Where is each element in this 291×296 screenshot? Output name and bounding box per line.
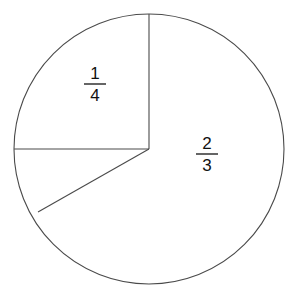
two-thirds-denominator: 3 bbox=[202, 156, 211, 175]
circle-figure-svg: 1 4 2 3 bbox=[0, 0, 291, 296]
two-thirds-numerator: 2 bbox=[202, 134, 211, 153]
one-quarter-denominator: 4 bbox=[90, 86, 99, 105]
fraction-circle-diagram: 1 4 2 3 bbox=[0, 0, 291, 296]
one-quarter-numerator: 1 bbox=[90, 64, 99, 83]
